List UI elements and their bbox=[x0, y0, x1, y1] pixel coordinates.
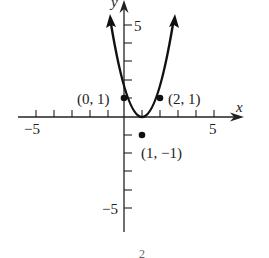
parabola-graph: x −5 5 y 5 −5 (0, 1) ( bbox=[0, 0, 269, 258]
x-tick-label-neg5: −5 bbox=[24, 121, 40, 137]
label-point-0-1: (0, 1) bbox=[77, 91, 110, 108]
label-point-2-1: (2, 1) bbox=[168, 91, 201, 108]
caption-superscript-fragment: 2 bbox=[139, 250, 145, 258]
caption-fragment: 2 bbox=[0, 250, 269, 258]
y-axis-label: y bbox=[109, 0, 118, 10]
label-vertex: (1, −1) bbox=[141, 145, 182, 162]
x-tick-label-5: 5 bbox=[209, 121, 217, 137]
point-vertex-1-neg1 bbox=[139, 132, 146, 139]
curve-arrow-right-icon bbox=[169, 14, 179, 28]
x-axis-label: x bbox=[235, 99, 243, 115]
marked-points: (0, 1) (2, 1) (1, −1) bbox=[77, 91, 201, 162]
point-2-1 bbox=[157, 95, 164, 102]
x-ticks bbox=[36, 110, 214, 117]
y-tick-label-5: 5 bbox=[134, 18, 142, 34]
point-0-1 bbox=[121, 95, 128, 102]
y-tick-label-neg5: −5 bbox=[102, 201, 118, 217]
